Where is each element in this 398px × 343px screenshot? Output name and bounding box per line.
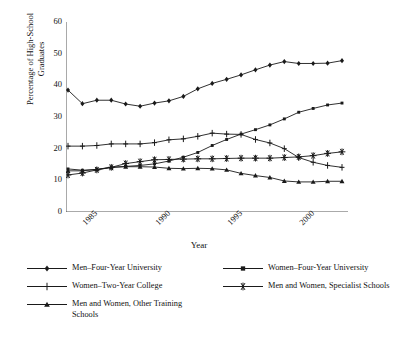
legend-label: Men and Women, Other Training Schools xyxy=(72,298,202,320)
legend-item[interactable]: Men and Women, Other Training Schools xyxy=(26,298,202,320)
y-axis-tick-label: 30 xyxy=(40,111,62,121)
y-axis-title-line1: Percentage of High-School xyxy=(25,13,35,105)
y-axis-tick-label: 0 xyxy=(40,206,62,216)
legend-marker xyxy=(222,281,264,292)
legend-item[interactable]: Women–Four-Year University xyxy=(222,262,398,275)
legend-label: Women–Four-Year University xyxy=(268,262,398,273)
legend-marker xyxy=(26,263,68,274)
series-plus xyxy=(66,130,344,171)
chart-svg xyxy=(66,22,354,212)
legend-label: Men–Four-Year University xyxy=(72,262,202,273)
asterisk-marker-icon xyxy=(222,281,264,292)
legend-column-2: Women–Four-Year UniversityMen and Women,… xyxy=(222,262,398,298)
legend-item[interactable]: Women–Two-Year College xyxy=(26,280,202,293)
legend-item[interactable]: Men–Four-Year University xyxy=(26,262,202,275)
y-axis-tick-label: 60 xyxy=(40,16,62,26)
legend-marker xyxy=(222,263,264,274)
series-triangle xyxy=(66,164,344,184)
y-axis-tick-labels: 0102030405060 xyxy=(38,22,62,212)
y-axis-tick-label: 20 xyxy=(40,143,62,153)
square-marker-icon xyxy=(222,263,264,274)
x-axis-tick-labels: 1985199019952000 xyxy=(66,214,366,240)
triangle-marker-icon xyxy=(26,299,68,310)
legend-marker xyxy=(26,299,68,310)
series-square xyxy=(67,102,344,172)
legend-column-1: Men–Four-Year UniversityWomen–Two-Year C… xyxy=(26,262,202,325)
legend-item[interactable]: Men and Women, Specialist Schools xyxy=(222,280,398,293)
y-axis-tick-label: 10 xyxy=(40,174,62,184)
y-axis-tick-label: 40 xyxy=(40,79,62,89)
legend-label: Men and Women, Specialist Schools xyxy=(268,280,398,291)
chart-figure: Percentage of High-School Graduates 0102… xyxy=(0,0,398,343)
legend-label: Women–Two-Year College xyxy=(72,280,202,291)
diamond-marker-icon xyxy=(26,263,68,274)
y-axis-tick-label: 50 xyxy=(40,48,62,58)
x-axis-title: Year xyxy=(0,240,398,250)
plus-marker-icon xyxy=(26,281,68,292)
legend-marker xyxy=(26,281,68,292)
plot-area xyxy=(66,22,354,212)
series-asterisk xyxy=(66,148,345,178)
series-diamond xyxy=(66,58,344,109)
